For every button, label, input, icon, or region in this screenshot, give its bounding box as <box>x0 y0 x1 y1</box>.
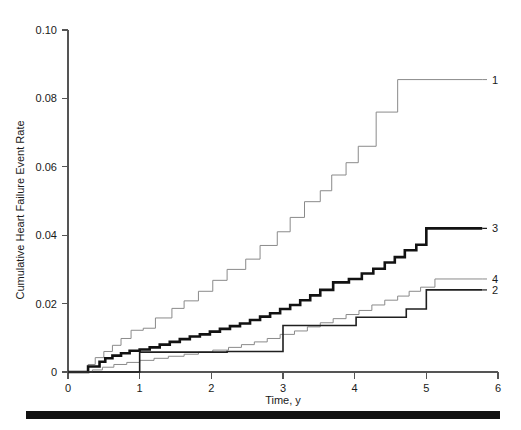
curve-end-label-2: 2 <box>492 284 498 296</box>
y-tick-label: 0.10 <box>36 24 57 36</box>
curve-end-label-3: 3 <box>492 222 498 234</box>
x-axis-label: Time, y <box>265 394 301 406</box>
x-tick-label: 3 <box>280 382 286 394</box>
curve-end-label-1: 1 <box>492 74 498 86</box>
y-tick-label: 0.02 <box>36 298 57 310</box>
figure-background <box>0 0 521 430</box>
y-tick-label: 0.04 <box>36 229 57 241</box>
y-tick-label: 0.08 <box>36 92 57 104</box>
y-axis-label: Cumulative Heart Failure Event Rate <box>14 120 26 299</box>
bottom-divider-rule <box>26 411 500 419</box>
y-tick-label: 0 <box>51 366 57 378</box>
x-tick-label: 1 <box>137 382 143 394</box>
x-tick-label: 4 <box>352 382 358 394</box>
x-tick-label: 6 <box>495 382 501 394</box>
chart-figure: Cumulative Heart Failure Event Rate Time… <box>0 0 521 430</box>
x-tick-label: 0 <box>65 382 71 394</box>
x-tick-label: 2 <box>208 382 214 394</box>
x-tick-label: 5 <box>423 382 429 394</box>
y-tick-label: 0.06 <box>36 161 57 173</box>
